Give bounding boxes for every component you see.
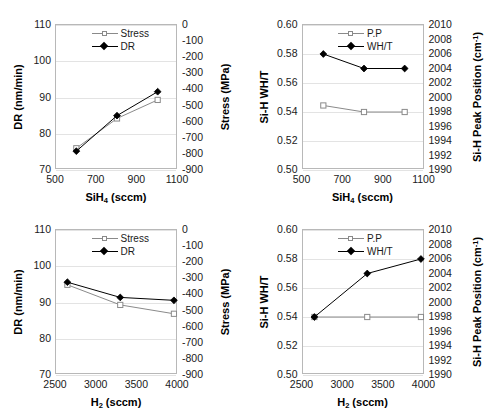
figure-panel-grid: 7080901001100-100-200-300-400-500-600-70… [0,0,487,410]
x-axis-title: H2 (sccm) [302,396,424,410]
y-axis-right-tick-label: 2008 [429,239,469,250]
filled-diamond-marker-icon [338,41,364,52]
y-axis-right-title: Si-H Peak Position (cm-1) [471,222,483,381]
data-point-marker [361,109,366,114]
chart-panel-bottom-left: 7080901001100-100-200-300-400-500-600-70… [0,205,244,410]
legend-item-pp: P.P [338,27,393,40]
x-axis-tick-label: 4000 [155,379,199,390]
y-axis-right-title: Stress (MPa) [219,222,231,381]
filled-diamond-marker-icon [92,41,118,52]
legend-symbol [100,41,108,49]
y-axis-right-tick-label: -100 [182,240,222,251]
legend-label: P.P [364,28,382,40]
y-axis-right-tick-label: 1992 [429,150,469,161]
y-axis-right-tick-label: 2010 [429,19,469,30]
open-square-marker-icon [92,28,118,39]
x-axis-tick-label: 900 [114,174,158,185]
y-axis-right-tick-label: -800 [182,353,222,364]
x-axis-title: SiH4 (sccm) [302,191,424,205]
y-axis-title: Si-H WH/T [258,24,270,169]
x-axis-title: SiH4 (sccm) [55,191,177,205]
legend-item-pp: P.P [338,232,393,245]
open-square-marker-icon [338,233,364,244]
chart-legend: P.PWH/T [338,232,393,258]
y-axis-right-tick-label: 2004 [429,268,469,279]
gridline [303,375,423,376]
data-point-marker [319,51,326,58]
y-axis-title: DR (nm/min) [12,229,24,374]
x-axis-tick-label: 3500 [361,379,405,390]
gridline [56,375,176,376]
y-axis-right-tick-label: -300 [182,272,222,283]
data-point-marker [417,256,424,263]
y-axis-right-tick-label: -200 [182,51,222,62]
y-axis-right-tick-label: 2002 [429,282,469,293]
legend-symbol [100,246,108,254]
y-axis-right-tick-label: -600 [182,116,222,127]
legend-item-dr: DR [92,40,149,53]
y-axis-right-tick-label: -400 [182,288,222,299]
y-axis-right-tick-label: -200 [182,256,222,267]
chart-panel-top-right: 0.500.520.540.560.580.602010200820062004… [244,0,487,205]
y-axis-right-tick-label: 1996 [429,326,469,337]
legend-label: Stress [118,28,149,40]
filled-diamond-marker-icon [338,246,364,257]
data-point-marker [418,314,423,319]
y-axis-right-tick-label: 1994 [429,340,469,351]
legend-label: DR [118,246,135,258]
y-axis-right-title: Si-H Peak Position (cm-1) [471,17,483,176]
chart-legend: StressDR [92,232,149,258]
y-axis-right-tick-label: -500 [182,100,222,111]
filled-diamond-marker-icon [92,246,118,257]
legend-symbol [102,31,107,36]
legend-symbol [102,236,107,241]
data-point-marker [364,314,369,319]
data-point-marker [171,297,178,304]
y-axis-right-tick-label: -800 [182,148,222,159]
y-axis-right-tick-label: 1992 [429,355,469,366]
y-axis-right-tick-label: 1998 [429,311,469,322]
legend-symbol [346,41,354,49]
x-axis-tick-label: 500 [33,174,77,185]
x-axis-tick-label: 500 [280,174,324,185]
x-axis-title: H2 (sccm) [55,396,177,410]
y-axis-right-tick-label: 2004 [429,63,469,74]
open-square-marker-icon [338,28,364,39]
legend-item-dr: DR [92,245,149,258]
x-axis-tick-label: 3000 [74,379,118,390]
y-axis-right-tick-label: 2002 [429,77,469,88]
y-axis-right-tick-label: 2010 [429,224,469,235]
y-axis-right-tick-label: 0 [182,19,222,30]
gridline [303,170,423,171]
y-axis-right-tick-label: 2006 [429,253,469,264]
x-axis-tick-label: 2500 [280,379,324,390]
y-axis-right-tick-label: -600 [182,321,222,332]
y-axis-right-tick-label: -900 [182,164,222,175]
x-axis-tick-label: 1100 [155,174,199,185]
legend-label: WH/T [364,41,393,53]
y-axis-right-tick-label: 0 [182,224,222,235]
y-axis-title: DR (nm/min) [12,24,24,169]
y-axis-right-tick-label: 1998 [429,106,469,117]
legend-item-stress: Stress [92,232,149,245]
y-axis-right-tick-label: -300 [182,67,222,78]
legend-label: P.P [364,233,382,245]
y-axis-right-tick-label: -700 [182,337,222,348]
y-axis-right-tick-label: 1994 [429,135,469,146]
x-axis-tick-label: 900 [361,174,405,185]
legend-item-stress: Stress [92,27,149,40]
legend-symbol [348,236,353,241]
legend-label: DR [118,41,135,53]
data-point-marker [320,103,325,108]
y-axis-right-tick-label: -700 [182,132,222,143]
x-axis-tick-label: 700 [74,174,118,185]
data-point-marker [401,65,408,72]
chart-legend: StressDR [92,27,149,53]
y-axis-right-tick-label: 2008 [429,34,469,45]
legend-label: Stress [118,233,149,245]
legend-symbol [348,31,353,36]
data-point-marker [402,109,407,114]
data-point-marker [118,302,123,307]
x-axis-tick-label: 4000 [402,379,446,390]
x-axis-tick-label: 700 [320,174,364,185]
